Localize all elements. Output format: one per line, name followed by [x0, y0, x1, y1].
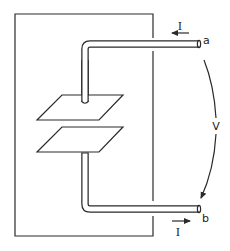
voltage-label: V	[212, 120, 220, 133]
voltage-arc: V	[201, 60, 220, 198]
current-arrow-bottom: I	[172, 221, 190, 239]
upper-wire-stub	[81, 60, 88, 103]
lower-plate	[37, 127, 123, 152]
terminal-label-a: a	[203, 34, 210, 47]
capacitor-diagram: I I a b V	[0, 0, 230, 251]
current-label-bottom: I	[176, 226, 180, 239]
current-arrow-top: I	[172, 20, 189, 33]
upper-plate	[37, 95, 123, 120]
current-label-top: I	[178, 20, 182, 33]
lower-lead-wire	[85, 153, 201, 213]
terminal-label-b: b	[202, 212, 209, 225]
